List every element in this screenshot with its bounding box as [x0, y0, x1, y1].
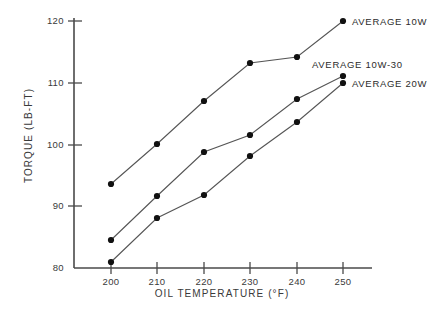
data-point [340, 18, 346, 24]
legend-label-average-20w: AVERAGE 20W [352, 78, 427, 89]
data-point [340, 73, 346, 79]
data-point [294, 119, 300, 125]
data-point [247, 60, 253, 66]
data-point [247, 153, 253, 159]
series-average-10w-30-line [111, 76, 343, 240]
data-point [108, 237, 114, 243]
y-tick-label-80: 80 [38, 262, 64, 273]
data-point [294, 96, 300, 102]
y-axis-title: TORQUE (LB-FT) [23, 56, 34, 216]
x-tick-label-210: 210 [138, 276, 176, 287]
x-axis-title: OIL TEMPERATURE (°F) [0, 288, 444, 299]
data-point [108, 181, 114, 187]
series-average-20w [108, 80, 346, 265]
data-point [201, 149, 207, 155]
data-point [154, 141, 160, 147]
series-average-10w-line [111, 21, 343, 184]
series-average-20w-line [111, 83, 343, 262]
y-tick-marks [68, 21, 82, 206]
data-point [201, 192, 207, 198]
data-point [340, 80, 346, 86]
x-tick-label-230: 230 [231, 276, 269, 287]
torque-vs-oil-temperature-chart: 120 110 100 90 80 200 210 220 230 240 25… [0, 0, 444, 313]
legend-label-average-10w-30: AVERAGE 10W-30 [312, 59, 403, 70]
data-point [294, 54, 300, 60]
data-point [201, 98, 207, 104]
legend-label-average-10w: AVERAGE 10W [352, 16, 427, 27]
x-tick-label-250: 250 [324, 276, 362, 287]
data-point [108, 259, 114, 265]
data-point [247, 132, 253, 138]
x-tick-label-240: 240 [278, 276, 316, 287]
series-average-10w [108, 18, 346, 187]
y-tick-label-120: 120 [38, 15, 64, 26]
data-point [154, 193, 160, 199]
x-tick-label-200: 200 [92, 276, 130, 287]
series-average-10w-30 [108, 73, 346, 243]
y-tick-label-100: 100 [38, 139, 64, 150]
x-tick-label-220: 220 [185, 276, 223, 287]
y-tick-label-90: 90 [38, 200, 64, 211]
y-tick-label-110: 110 [38, 77, 64, 88]
plot-area [0, 0, 444, 313]
data-point [154, 215, 160, 221]
